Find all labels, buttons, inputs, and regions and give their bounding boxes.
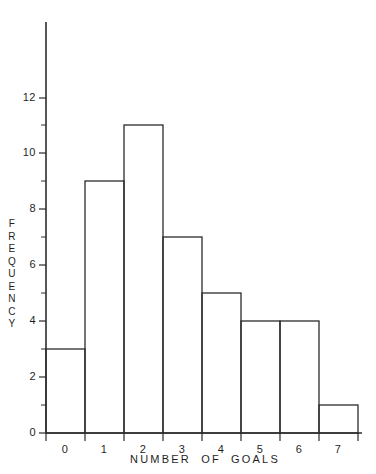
- y-axis-title-char-e1: E: [4, 243, 20, 256]
- y-tick-label-10: 10: [10, 147, 36, 158]
- y-axis-title: F R E Q U E N C Y: [4, 218, 20, 331]
- bar-series: [46, 125, 358, 433]
- y-axis-title-char-q: Q: [4, 256, 20, 269]
- y-tick-label-12: 12: [10, 92, 36, 103]
- y-axis-title-char-u: U: [4, 268, 20, 281]
- bar-7: [319, 405, 358, 433]
- bar-0: [46, 349, 85, 433]
- y-tick-label-8: 8: [14, 203, 36, 214]
- bar-4: [202, 293, 241, 433]
- y-axis-title-char-e2: E: [4, 281, 20, 294]
- x-axis-title: NUMBER OF GOALS: [60, 453, 350, 465]
- y-axis-title-char-c: C: [4, 306, 20, 319]
- y-axis-title-char-r: R: [4, 231, 20, 244]
- y-axis-title-char-f: F: [4, 218, 20, 231]
- bar-6: [280, 321, 319, 433]
- histogram-chart: 0 2 4 6 8 10 12 0 1 2 3 4 5 6 7 F R E Q …: [0, 0, 376, 474]
- bar-2: [124, 125, 163, 433]
- bar-1: [85, 181, 124, 433]
- y-axis-title-char-n: N: [4, 293, 20, 306]
- plot-svg: [0, 0, 376, 474]
- y-tick-label-2: 2: [14, 371, 36, 382]
- y-axis-title-char-y: Y: [4, 318, 20, 331]
- y-axis-major-ticks: [39, 98, 46, 433]
- bar-5: [241, 321, 280, 433]
- y-tick-label-0: 0: [14, 427, 36, 438]
- bar-3: [163, 237, 202, 433]
- figure-container: 0 2 4 6 8 10 12 0 1 2 3 4 5 6 7 F R E Q …: [0, 0, 376, 474]
- x-axis-ticks: [46, 433, 358, 441]
